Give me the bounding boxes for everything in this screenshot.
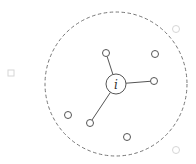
neighbor-node-n1 — [103, 50, 110, 57]
outside-node-o2 — [173, 26, 180, 33]
neighbor-node-n4 — [65, 112, 72, 119]
background — [0, 0, 196, 164]
outside-node-o1 — [8, 70, 14, 76]
center-node: i — [106, 74, 126, 94]
neighborhood-diagram: i — [0, 0, 196, 164]
neighbor-node-n3 — [151, 78, 158, 85]
neighbor-node-n5 — [87, 120, 94, 127]
neighbor-node-n6 — [124, 134, 131, 141]
center-node-label: i — [114, 78, 118, 92]
neighbor-node-n2 — [152, 51, 159, 58]
outside-node-o3 — [173, 147, 180, 154]
